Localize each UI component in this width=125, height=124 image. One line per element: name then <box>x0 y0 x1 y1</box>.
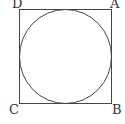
inscribed-circle <box>20 10 112 104</box>
diagram-canvas: D A C B <box>0 0 125 124</box>
vertex-label-c: C <box>9 102 19 117</box>
vertex-label-d: D <box>12 0 22 11</box>
vertex-label-a: A <box>109 0 120 11</box>
vertex-label-b: B <box>112 102 122 117</box>
